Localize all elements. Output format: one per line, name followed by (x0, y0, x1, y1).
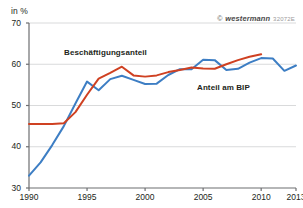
y-tick-label: 60 (3, 60, 21, 69)
x-tick-label: 2013 (279, 193, 303, 202)
y-tick-label: 50 (3, 101, 21, 110)
data-series (29, 54, 296, 175)
y-tick-label: 70 (3, 19, 21, 28)
series-label-gdp-share: Anteil am BIP (197, 83, 250, 92)
x-tick-label: 1995 (70, 193, 104, 202)
y-tick-label: 40 (3, 142, 21, 151)
x-tick-label: 2005 (186, 193, 220, 202)
x-tick-label: 1990 (12, 193, 46, 202)
x-tick-label: 2010 (244, 193, 278, 202)
x-tick-label: 2000 (128, 193, 162, 202)
y-tick-label: 30 (3, 184, 21, 193)
series-label-employment-share: Beschäftigungsanteil (64, 48, 147, 57)
chart-container: in % © westermann 32072E 3040506070 1990… (0, 0, 303, 208)
gridlines (29, 23, 296, 147)
line-chart-plot (0, 0, 303, 208)
